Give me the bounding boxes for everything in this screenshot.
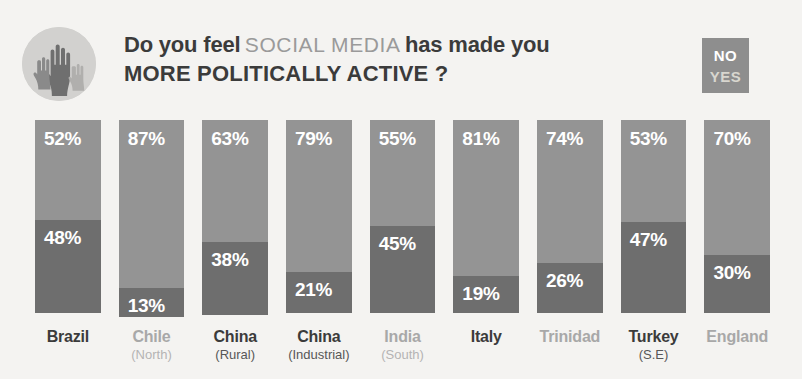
bar-segment-yes: 21% bbox=[286, 272, 352, 313]
bar-segment-yes: 19% bbox=[453, 276, 519, 313]
bar-value-no: 53% bbox=[621, 120, 667, 150]
bar-column: 63%38% bbox=[202, 120, 268, 313]
x-axis-label-name: India bbox=[370, 327, 436, 346]
x-axis-labels: BrazilChile(North)China(Rural)China(Indu… bbox=[35, 320, 770, 363]
bar-value-yes: 19% bbox=[453, 276, 499, 305]
bar-column: 87%13% bbox=[119, 120, 185, 313]
legend: NO YES bbox=[702, 38, 749, 93]
bar-segment-no: 74% bbox=[537, 120, 603, 263]
bar-column: 81%19% bbox=[453, 120, 519, 313]
bar-segment-yes: 45% bbox=[370, 226, 436, 313]
x-axis-label: Italy bbox=[453, 320, 519, 363]
headline-bold-b: has made you bbox=[405, 32, 549, 57]
bar-value-no: 63% bbox=[202, 120, 248, 150]
x-axis-label-sublabel: (S.E) bbox=[621, 346, 687, 363]
stacked-bar-chart: 52%48%87%13%63%38%79%21%55%45%81%19%74%2… bbox=[0, 113, 802, 379]
bar-value-yes: 30% bbox=[704, 255, 750, 284]
bar-segment-no: 79% bbox=[286, 120, 352, 272]
x-axis-label-sublabel: (North) bbox=[119, 346, 185, 363]
bar-column: 79%21% bbox=[286, 120, 352, 313]
headline-bold-a: Do you feel bbox=[124, 32, 240, 57]
bar-column: 70%30% bbox=[704, 120, 770, 313]
x-axis-label-sublabel: (Rural) bbox=[202, 346, 268, 363]
bar-value-no: 87% bbox=[119, 120, 165, 150]
bar-segment-yes: 47% bbox=[621, 222, 687, 313]
x-axis-label: Chile(North) bbox=[119, 320, 185, 363]
infographic-header: Do you feel SOCIAL MEDIA has made you MO… bbox=[0, 0, 802, 113]
bar-value-yes: 48% bbox=[35, 220, 81, 249]
x-axis-label: Trinidad bbox=[537, 320, 603, 363]
x-axis-label: China(Rural) bbox=[202, 320, 268, 363]
x-axis-label: China(Industrial) bbox=[286, 320, 352, 363]
bar-value-yes: 38% bbox=[202, 242, 248, 271]
bar-column: 55%45% bbox=[370, 120, 436, 313]
legend-item-no: NO bbox=[714, 45, 738, 66]
headline-line-1: Do you feel SOCIAL MEDIA has made you bbox=[124, 31, 684, 60]
x-axis-label: Turkey(S.E) bbox=[621, 320, 687, 363]
headline: Do you feel SOCIAL MEDIA has made you MO… bbox=[124, 31, 684, 89]
bar-group: 52%48%87%13%63%38%79%21%55%45%81%19%74%2… bbox=[35, 120, 770, 320]
bar-column: 53%47% bbox=[621, 120, 687, 313]
x-axis-label: Brazil bbox=[35, 320, 101, 363]
bar-value-no: 55% bbox=[370, 120, 416, 150]
bar-segment-yes: 48% bbox=[35, 220, 101, 313]
x-axis-label: England bbox=[704, 320, 770, 363]
bar-value-no: 74% bbox=[537, 120, 583, 150]
headline-question: MORE POLITICALLY ACTIVE ? bbox=[124, 61, 448, 86]
bar-segment-yes: 38% bbox=[202, 242, 268, 315]
bar-value-yes: 45% bbox=[370, 226, 416, 255]
bar-segment-no: 55% bbox=[370, 120, 436, 226]
bar-segment-no: 63% bbox=[202, 120, 268, 242]
bar-segment-no: 53% bbox=[621, 120, 687, 222]
bar-segment-no: 52% bbox=[35, 120, 101, 220]
x-axis-label-name: Turkey bbox=[621, 327, 687, 346]
bar-segment-yes: 13% bbox=[119, 288, 185, 317]
bar-column: 52%48% bbox=[35, 120, 101, 313]
bar-column: 74%26% bbox=[537, 120, 603, 313]
bar-segment-no: 87% bbox=[119, 120, 185, 288]
raised-hands-icon bbox=[22, 27, 96, 101]
headline-social-media: SOCIAL MEDIA bbox=[245, 33, 401, 56]
x-axis-label-name: Brazil bbox=[35, 327, 101, 346]
bar-value-yes: 26% bbox=[537, 263, 583, 292]
x-axis-label-name: China bbox=[202, 327, 268, 346]
legend-item-yes: YES bbox=[710, 66, 742, 87]
x-axis-label-sublabel: (Industrial) bbox=[286, 346, 352, 363]
bar-value-no: 79% bbox=[286, 120, 332, 150]
bar-segment-no: 70% bbox=[704, 120, 770, 255]
x-axis-label: India(South) bbox=[370, 320, 436, 363]
bar-value-no: 81% bbox=[453, 120, 499, 150]
bar-value-yes: 21% bbox=[286, 272, 332, 301]
bar-value-no: 52% bbox=[35, 120, 81, 150]
bar-segment-no: 81% bbox=[453, 120, 519, 276]
x-axis-label-name: Chile bbox=[119, 327, 185, 346]
bar-value-yes: 47% bbox=[621, 222, 667, 251]
bar-value-no: 70% bbox=[704, 120, 750, 150]
x-axis-label-name: Italy bbox=[453, 327, 519, 346]
bar-value-yes: 13% bbox=[119, 288, 165, 317]
x-axis-label-name: Trinidad bbox=[537, 327, 603, 346]
headline-line-2: MORE POLITICALLY ACTIVE ? bbox=[124, 60, 684, 89]
x-axis-label-name: England bbox=[704, 327, 770, 346]
x-axis-label-name: China bbox=[286, 327, 352, 346]
bar-segment-yes: 30% bbox=[704, 255, 770, 313]
x-axis-label-sublabel: (South) bbox=[370, 346, 436, 363]
bar-segment-yes: 26% bbox=[537, 263, 603, 313]
